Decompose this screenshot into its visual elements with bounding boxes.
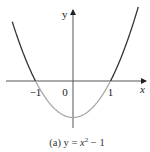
chart: x y −101 (a) y = x2 − 1 bbox=[0, 0, 150, 152]
chart-caption: (a) y = x2 − 1 bbox=[49, 136, 104, 149]
x-tick-label: 1 bbox=[108, 86, 114, 98]
caption-prefix: (a) y = bbox=[49, 137, 80, 149]
y-axis-label: y bbox=[62, 8, 68, 20]
x-tick-label: 0 bbox=[62, 86, 68, 98]
caption-suffix: − 1 bbox=[88, 137, 104, 148]
x-axis-label: x bbox=[139, 83, 145, 95]
x-tick-label: −1 bbox=[30, 86, 42, 98]
curve-segment-above-axis-right bbox=[111, 7, 139, 81]
curve-segment-above-axis-left bbox=[12, 22, 35, 81]
